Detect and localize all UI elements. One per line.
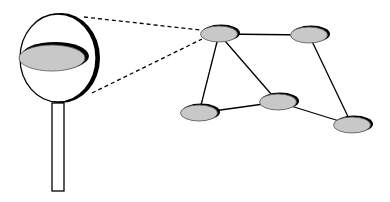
graph-node — [291, 26, 331, 44]
graph-edge — [309, 35, 352, 125]
graph-nodes — [181, 25, 374, 134]
graph-node — [334, 116, 374, 134]
zoom-guide-lines — [84, 17, 202, 93]
graph-node — [201, 25, 241, 43]
network-magnifier-diagram — [0, 0, 390, 202]
zoom-line — [92, 39, 202, 93]
magnified-node — [19, 45, 85, 71]
graph-edges — [199, 34, 352, 125]
magnifying-glass-icon — [19, 13, 100, 191]
graph-node — [181, 104, 221, 122]
zoom-line — [84, 17, 200, 30]
graph-node — [260, 93, 300, 111]
magnifier-handle — [52, 103, 64, 191]
graph-edge — [219, 34, 278, 102]
graph-edge — [199, 34, 219, 113]
